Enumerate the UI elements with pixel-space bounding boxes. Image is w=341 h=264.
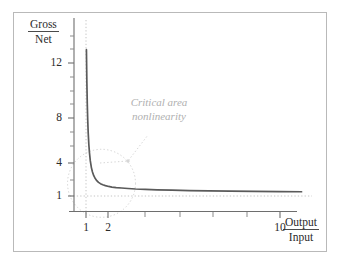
critical-area-annotation-text: Critical area nonlinearity: [110, 96, 208, 124]
y-tick-label-8: 8: [40, 111, 62, 123]
y-major-ticks: [68, 63, 74, 196]
y-tick-label-12: 12: [40, 56, 62, 68]
annotation-leader-dot: [126, 159, 129, 162]
x-major-ticks: [86, 212, 280, 218]
y-tick-label-1: 1: [40, 189, 62, 201]
y-axis-label: Gross Net: [28, 18, 59, 45]
y-tick-label-4: 4: [40, 156, 62, 168]
x-tick-label-1: 1: [75, 221, 97, 233]
x-tick-label-10: 10: [269, 221, 291, 233]
x-tick-label-2: 2: [97, 221, 119, 233]
y-axis-label-numerator: Gross: [28, 18, 59, 32]
figure-container: Gross Net Output Input 12 8 4 1 1 2 10 C…: [0, 0, 341, 264]
x-minor-ticks: [145, 212, 247, 217]
annotation-leader-line: [100, 135, 148, 163]
y-axis-label-denominator: Net: [28, 32, 59, 45]
y-minor-ticks: [70, 36, 74, 180]
